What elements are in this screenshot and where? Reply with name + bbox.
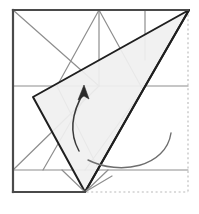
origami-diagram: [0, 0, 199, 214]
diagram-canvas: [0, 0, 199, 214]
